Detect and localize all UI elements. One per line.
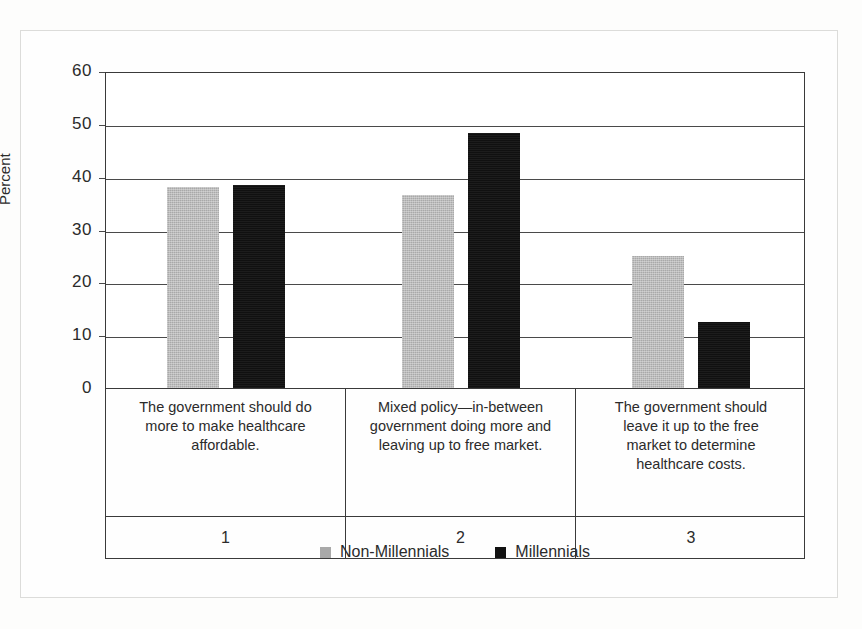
- y-tick-label: 40: [46, 167, 92, 187]
- legend-entry-1[interactable]: Non-Millennials: [320, 543, 449, 561]
- y-tick-label: 0: [46, 378, 92, 398]
- category-label-2: Mixed policy—in-betweengovernment doing …: [346, 389, 576, 516]
- legend-entry-2[interactable]: Millennials: [495, 543, 590, 561]
- category-label-line: more to make healthcare: [106, 417, 345, 436]
- category-label-line: Mixed policy—in-between: [346, 398, 575, 417]
- category-label-line: market to determine: [576, 436, 806, 455]
- bar-series-container: [106, 73, 804, 388]
- bar-non-millennials-3: [632, 256, 684, 388]
- bar-millennials-2: [468, 133, 520, 388]
- bar-millennials-3: [698, 322, 750, 388]
- bar-non-millennials-2: [402, 195, 454, 388]
- category-label-line: government doing more and: [346, 417, 575, 436]
- legend-label: Millennials: [515, 543, 590, 561]
- y-tick-label: 20: [46, 272, 92, 292]
- bar-millennials-1: [233, 185, 285, 388]
- chart-page: Percent 0102030405060 The government sho…: [0, 0, 862, 629]
- category-label-line: The government should do: [106, 398, 345, 417]
- chart-legend: Non-MillennialsMillennials: [105, 543, 805, 561]
- category-label-line: healthcare costs.: [576, 455, 806, 474]
- plot-area: [105, 72, 805, 389]
- category-label-1: The government should domore to make hea…: [106, 389, 346, 516]
- category-label-line: affordable.: [106, 436, 345, 455]
- y-tick-label: 30: [46, 220, 92, 240]
- y-tick-label: 10: [46, 325, 92, 345]
- category-label-line: leave it up to the free: [576, 417, 806, 436]
- category-label-band: The government should domore to make hea…: [105, 389, 805, 517]
- legend-label: Non-Millennials: [340, 543, 449, 561]
- legend-swatch-icon: [320, 547, 331, 558]
- bar-non-millennials-1: [167, 187, 219, 388]
- y-tick-label: 50: [46, 114, 92, 134]
- category-label-line: leaving up to free market.: [346, 436, 575, 455]
- category-label-3: The government shouldleave it up to the …: [576, 389, 806, 516]
- y-tick-label: 60: [46, 61, 92, 81]
- legend-swatch-icon: [495, 547, 506, 558]
- category-label-line: The government should: [576, 398, 806, 417]
